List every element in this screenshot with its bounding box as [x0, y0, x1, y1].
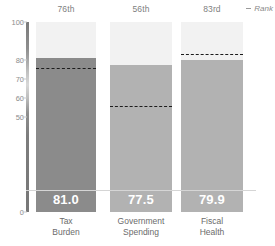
y-tick-label-80: 80	[2, 56, 24, 65]
bar-government-spending[interactable]: 77.5	[110, 22, 172, 212]
bar-chart: 76th 56th 83rd Rank 100807060500 81.077.…	[0, 0, 275, 246]
rank-row: 76th 56th 83rd Rank	[0, 0, 275, 20]
y-tick-mark-60	[22, 98, 27, 99]
legend: Rank	[246, 4, 273, 13]
x-label-government-spending: Government Spending	[100, 216, 182, 237]
bar-tax-burden[interactable]: 81.0	[36, 22, 96, 212]
y-tick-mark-100	[22, 22, 27, 23]
rank-dash-line-government-spending	[110, 106, 172, 107]
y-tick-mark-0	[22, 212, 27, 213]
x-axis-baseline	[26, 190, 256, 191]
rank-dash-line-fiscal-health	[181, 54, 243, 55]
y-tick-mark-80	[22, 60, 27, 61]
x-label-fiscal-health: Fiscal Health	[171, 216, 253, 237]
y-tick-label-60: 60	[2, 94, 24, 103]
plot-area: 100807060500 81.077.579.9	[0, 22, 275, 212]
bar-value-label-fiscal-health: 79.9	[181, 192, 243, 207]
rank-dash-line-tax-burden	[36, 68, 96, 69]
bar-value-label-tax-burden: 81.0	[36, 192, 96, 207]
y-tick-mark-50	[22, 117, 27, 118]
rank-label-tax-burden: 76th	[36, 4, 96, 14]
rank-label-government-spending: 56th	[110, 4, 172, 14]
y-tick-label-70: 70	[2, 75, 24, 84]
y-tick-label-100: 100	[2, 18, 24, 27]
x-label-tax-burden: Tax Burden	[26, 216, 106, 237]
y-tick-mark-70	[22, 79, 27, 80]
bar-value-label-government-spending: 77.5	[110, 192, 172, 207]
rank-label-fiscal-health: 83rd	[181, 4, 243, 14]
bar-fiscal-health[interactable]: 79.9	[181, 22, 243, 212]
y-tick-label-50: 50	[2, 113, 24, 122]
legend-label-rank: Rank	[254, 4, 273, 13]
dashed-line-marker-icon	[246, 8, 251, 10]
x-axis-labels: Tax Burden Government Spending Fiscal He…	[0, 216, 275, 246]
bar-fill-tax-burden	[36, 58, 96, 212]
